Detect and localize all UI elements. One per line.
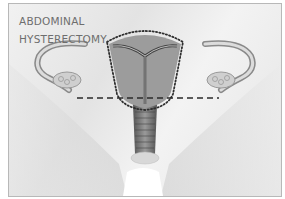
right-ovary [207, 72, 235, 88]
illustration-frame: ABDOMINAL HYSTERECTOMY [8, 3, 282, 197]
illustration-title: ABDOMINAL HYSTERECTOMY [19, 12, 107, 48]
title-line-2: HYSTERECTOMY [19, 30, 107, 48]
title-line-1: ABDOMINAL [19, 12, 107, 30]
vaginal-opening [123, 168, 163, 196]
left-ovary [53, 72, 81, 88]
